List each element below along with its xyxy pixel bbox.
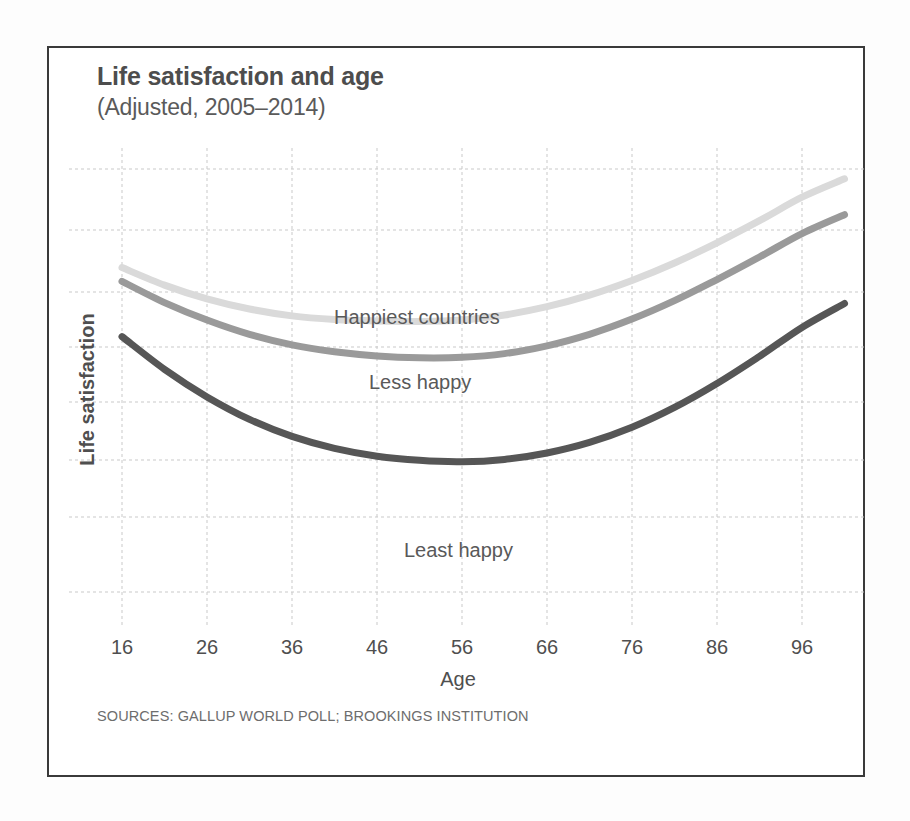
- curve-happiest-countries: [122, 179, 845, 322]
- xtick-66: 66: [517, 636, 577, 659]
- series-label-least-happy: Least happy: [404, 539, 513, 562]
- xtick-46: 46: [347, 636, 407, 659]
- xtick-76: 76: [602, 636, 662, 659]
- xtick-16: 16: [92, 636, 152, 659]
- series-label-less-happy: Less happy: [369, 371, 471, 394]
- xtick-96: 96: [772, 636, 832, 659]
- x-axis-title: Age: [49, 668, 867, 691]
- xtick-36: 36: [262, 636, 322, 659]
- xtick-86: 86: [687, 636, 747, 659]
- y-axis-title: Life satisfaction: [76, 290, 99, 490]
- source-note: SOURCES: GALLUP WORLD POLL; BROOKINGS IN…: [97, 708, 529, 724]
- series-label-happiest: Happiest countries: [334, 306, 500, 329]
- xtick-26: 26: [177, 636, 237, 659]
- chart-card: Life satisfaction and age (Adjusted, 200…: [47, 46, 865, 777]
- chart-page: Life satisfaction and age (Adjusted, 200…: [0, 0, 910, 821]
- xtick-56: 56: [432, 636, 492, 659]
